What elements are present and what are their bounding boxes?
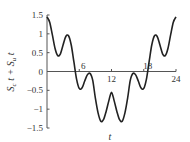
y-tick-label: 1.5 (32, 10, 44, 20)
y-tick-label: −1.5 (27, 123, 44, 133)
x-tick-label: 6 (81, 61, 86, 71)
y-axis-label: Sc t + Su t (5, 52, 18, 91)
x-axis-label: t (109, 131, 112, 142)
x-tick-label: 24 (172, 74, 182, 84)
y-tick-label: −1 (33, 104, 43, 114)
y-tick-label: −0.5 (27, 85, 44, 95)
svg-text:Sc t + Su t: Sc t + Su t (5, 52, 18, 91)
y-tick-label: 0 (39, 67, 44, 77)
line-chart: 1.510.50−0.5−1−1.5 6121824 t Sc t + Su t (0, 0, 190, 142)
y-axis: 1.510.50−0.5−1−1.5 (27, 10, 50, 133)
y-tick-label: 0.5 (32, 48, 44, 58)
x-tick-label: 12 (107, 74, 116, 84)
y-tick-label: 1 (39, 29, 44, 39)
x-axis: 6121824 (47, 61, 181, 84)
